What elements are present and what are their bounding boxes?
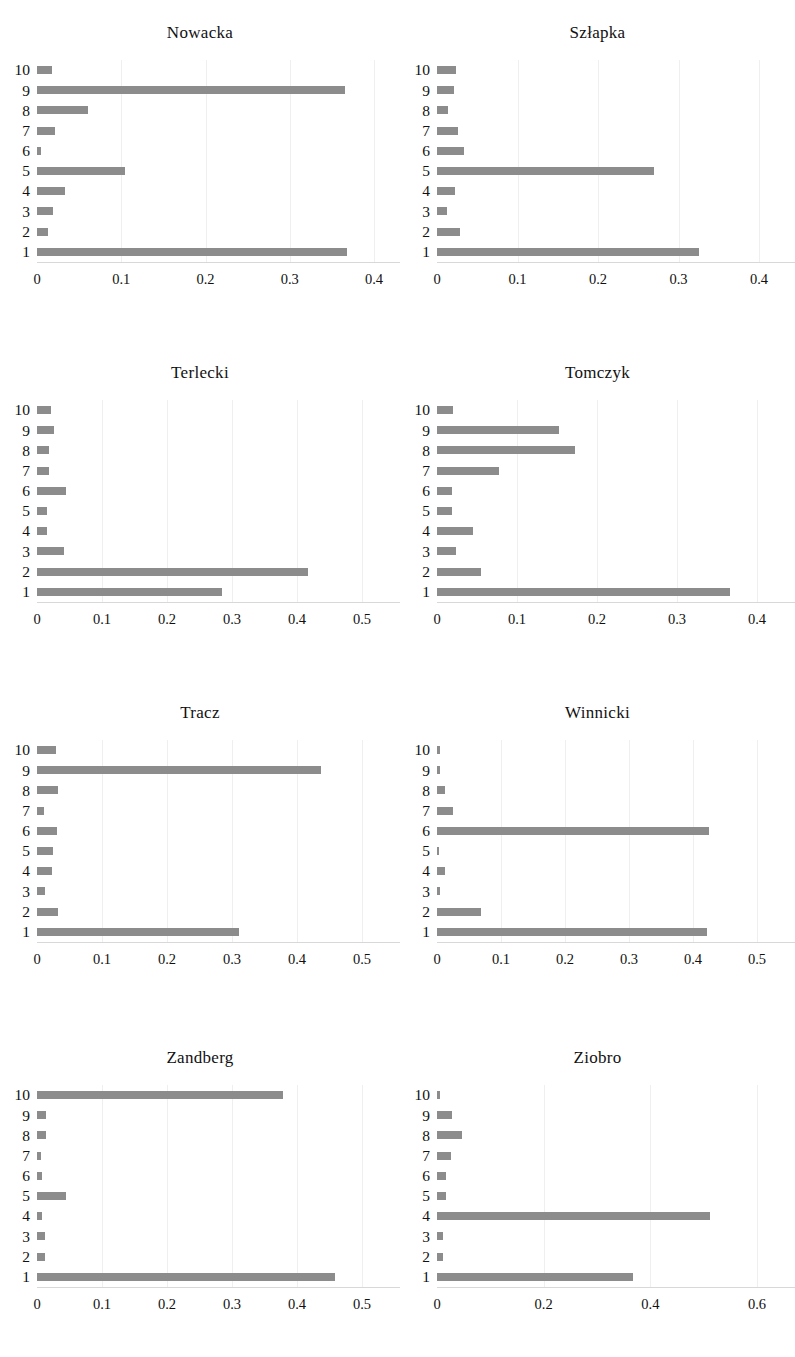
bar	[37, 167, 125, 175]
bar-row: 3	[400, 201, 795, 221]
bar-row: 10	[0, 60, 400, 80]
x-axis-tick-label: 0	[433, 951, 440, 968]
bar-track	[437, 841, 795, 861]
bar	[437, 746, 440, 754]
bar	[437, 467, 499, 475]
y-axis-tick-label: 3	[0, 1229, 37, 1245]
x-axis-tick-label: 0.3	[669, 271, 687, 288]
bar	[437, 887, 440, 895]
bar-row: 6	[0, 1166, 400, 1186]
bar-track	[437, 541, 795, 561]
bar	[437, 66, 456, 74]
bar-track	[437, 1226, 795, 1246]
x-axis: 00.20.40.6	[437, 1287, 795, 1317]
y-axis-tick-label: 6	[0, 823, 37, 839]
bar-track	[437, 1105, 795, 1125]
x-axis-tick-label: 0.6	[748, 1296, 766, 1313]
x-axis-tick-label: 0	[433, 1296, 440, 1313]
y-axis-tick-label: 5	[0, 163, 37, 179]
bar	[437, 867, 445, 875]
bar-row: 5	[400, 501, 795, 521]
bar-row: 3	[0, 201, 400, 221]
bar-row: 6	[0, 481, 400, 501]
bar-track	[437, 1146, 795, 1166]
y-axis-tick-label: 8	[400, 1128, 437, 1144]
bar	[37, 1091, 283, 1099]
bar	[37, 928, 239, 936]
bar	[37, 588, 222, 596]
y-axis-tick-label: 6	[0, 143, 37, 159]
chart-panel-tracz: Tracz1098765432100.10.20.30.40.5	[0, 680, 400, 1025]
bar-track	[37, 780, 400, 800]
bar	[37, 547, 64, 555]
chart-title: Nowacka	[0, 0, 400, 48]
bar	[437, 527, 473, 535]
y-axis-tick-label: 3	[0, 204, 37, 220]
bar	[37, 1212, 42, 1220]
x-axis-tick-label: 0.2	[588, 611, 606, 628]
x-axis-tick-label: 0.2	[589, 271, 607, 288]
y-axis-tick-label: 8	[0, 103, 37, 119]
bar-row: 10	[400, 400, 795, 420]
bar-row: 7	[400, 801, 795, 821]
bar-track	[37, 121, 400, 141]
bar-track	[437, 161, 795, 181]
bar	[37, 908, 58, 916]
bar-track	[437, 1125, 795, 1145]
bar-track	[37, 1186, 400, 1206]
bar-row: 4	[400, 181, 795, 201]
bar-track	[437, 121, 795, 141]
bar	[437, 1131, 462, 1139]
y-axis-tick-label: 4	[0, 523, 37, 539]
y-axis-tick-label: 7	[400, 1148, 437, 1164]
bar	[437, 1192, 446, 1200]
x-axis-tick-label: 0.4	[288, 1296, 306, 1313]
bar-row: 5	[400, 161, 795, 181]
bar	[437, 127, 458, 135]
chart-title: Ziobro	[400, 1025, 795, 1073]
bar	[437, 248, 699, 256]
x-axis-tick-label: 0.5	[748, 951, 766, 968]
y-axis-tick-label: 7	[400, 803, 437, 819]
y-axis-tick-label: 1	[0, 244, 37, 260]
bar-row: 10	[0, 740, 400, 760]
bar-track	[37, 1166, 400, 1186]
bar	[437, 106, 448, 114]
bar	[437, 786, 445, 794]
y-axis-tick-label: 6	[400, 823, 437, 839]
y-axis-tick-label: 8	[400, 443, 437, 459]
plot-area: 1098765432100.10.20.30.40.5	[0, 740, 400, 972]
bar-row: 8	[400, 1125, 795, 1145]
bar-track	[37, 201, 400, 221]
bar	[437, 1172, 446, 1180]
y-axis-tick-label: 10	[400, 402, 437, 418]
y-axis-tick-label: 5	[400, 163, 437, 179]
bar	[437, 568, 481, 576]
bar-row: 5	[0, 1186, 400, 1206]
bar-track	[37, 481, 400, 501]
y-axis-tick-label: 7	[0, 463, 37, 479]
bar	[37, 248, 347, 256]
bar-track	[437, 760, 795, 780]
bar	[37, 1232, 45, 1240]
small-multiples-grid: Nowacka1098765432100.10.20.30.4Szłapka10…	[0, 0, 795, 1357]
bar	[437, 847, 439, 855]
bar-track	[437, 100, 795, 120]
bar-track	[437, 780, 795, 800]
y-axis-tick-label: 8	[0, 1128, 37, 1144]
y-axis-tick-label: 4	[0, 1208, 37, 1224]
bar-row: 2	[0, 902, 400, 922]
bar-track	[37, 821, 400, 841]
bar-rows: 10987654321	[400, 60, 795, 262]
bar	[437, 908, 481, 916]
x-axis-tick-label: 0.1	[93, 1296, 111, 1313]
y-axis-tick-label: 9	[0, 83, 37, 99]
x-axis-tick-label: 0	[33, 1296, 40, 1313]
x-axis-tick-label: 0.3	[223, 951, 241, 968]
bar-track	[437, 881, 795, 901]
y-axis-tick-label: 7	[0, 1148, 37, 1164]
x-axis-tick-label: 0.5	[353, 1296, 371, 1313]
bar-row: 10	[0, 400, 400, 420]
y-axis-tick-label: 8	[0, 443, 37, 459]
bar-track	[37, 1146, 400, 1166]
